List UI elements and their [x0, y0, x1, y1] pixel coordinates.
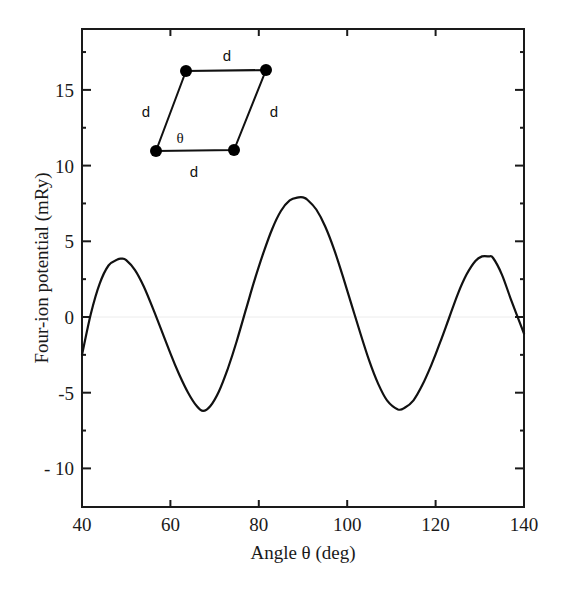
x-tick-label: 120: [421, 514, 450, 535]
y-tick-label: 15: [55, 80, 74, 101]
rhombus-outline: [156, 70, 266, 151]
potential-curve: [82, 197, 524, 411]
y-tick-label: 10: [55, 156, 74, 177]
y-tick-label: - 10: [44, 458, 74, 479]
inset-rhombus-diagram: d d d d θ: [142, 47, 278, 180]
inset-label-bottom: d: [190, 163, 198, 180]
ion-dot-top-left: [180, 65, 192, 77]
x-tick-label: 140: [510, 514, 539, 535]
four-ion-potential-chart: 406080100120140- 10-5051015 Angle θ (deg…: [0, 0, 563, 595]
ion-dot-bottom-right: [228, 144, 240, 156]
ion-dot-top-right: [260, 64, 272, 76]
tick-labels: 406080100120140- 10-5051015: [44, 80, 538, 535]
x-tick-label: 100: [333, 514, 362, 535]
y-tick-label: 0: [65, 307, 75, 328]
y-tick-label: 5: [65, 231, 75, 252]
x-tick-label: 80: [249, 514, 268, 535]
x-tick-label: 60: [161, 514, 180, 535]
inset-label-top: d: [223, 47, 231, 64]
inset-label-right: d: [270, 103, 278, 120]
plot-frame: [82, 29, 524, 507]
x-axis-title: Angle θ (deg): [250, 542, 355, 564]
x-tick-label: 40: [73, 514, 92, 535]
ion-dot-bottom-left: [150, 145, 162, 157]
inset-label-theta: θ: [176, 130, 183, 146]
inset-label-left: d: [142, 103, 150, 120]
y-axis-title: Four-ion potential (mRy): [31, 173, 53, 364]
axis-ticks: [82, 29, 524, 507]
y-tick-label: -5: [58, 383, 74, 404]
